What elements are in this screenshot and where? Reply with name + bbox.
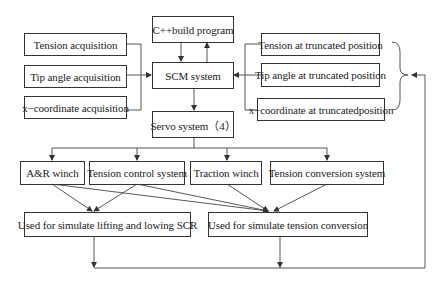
cpp-build-program-label: C++build program — [153, 24, 234, 36]
curly-brace — [392, 42, 408, 110]
scm-system-box: SCM system — [152, 62, 234, 89]
tension-acquisition-label: Tension acquisition — [34, 39, 118, 51]
ar-winch-box: A&R winch — [20, 161, 85, 185]
cpp-build-program-box: C++build program — [152, 16, 234, 43]
simulate-tension-conversion-label: Used for simulate tension conversion — [208, 219, 368, 231]
tension-truncated-label: Tension at truncated position — [258, 39, 382, 51]
x-coordinate-truncated-box: x−coordinate at truncatedposition — [257, 98, 385, 121]
simulate-tension-conversion-box: Used for simulate tension conversion — [208, 212, 368, 237]
tension-conversion-system-box: Tension conversion system — [270, 161, 384, 185]
tension-truncated-box: Tension at truncated position — [261, 33, 380, 56]
scm-system-label: SCM system — [165, 70, 221, 82]
tension-acquisition-box: Tension acquisition — [24, 33, 127, 56]
tension-conversion-system-label: Tension conversion system — [269, 167, 386, 179]
tip-angle-truncated-label: Tip angle at truncated position — [255, 69, 386, 81]
x-coordinate-acquisition-box: x−coordinate acquisition — [24, 96, 127, 119]
simulate-lifting-box: Used for simulate lifting and lowing SCR — [24, 212, 191, 237]
traction-winch-label: Traction winch — [193, 167, 258, 179]
tension-control-system-label: Tension control system — [87, 167, 187, 179]
tip-angle-acquisition-box: Tip angle acquisition — [24, 65, 127, 88]
ar-winch-label: A&R winch — [26, 167, 79, 179]
x-coordinate-truncated-label: x−coordinate at truncatedposition — [249, 104, 394, 116]
traction-winch-box: Traction winch — [190, 161, 262, 185]
tension-control-system-box: Tension control system — [89, 161, 185, 185]
x-coordinate-acquisition-label: x−coordinate acquisition — [22, 102, 129, 114]
tip-angle-truncated-box: Tip angle at truncated position — [261, 63, 380, 87]
tip-angle-acquisition-label: Tip angle acquisition — [30, 71, 120, 83]
servo-system-label: Servo system（4） — [151, 117, 236, 133]
servo-system-box: Servo system（4） — [152, 111, 234, 138]
simulate-lifting-label: Used for simulate lifting and lowing SCR — [18, 219, 197, 231]
